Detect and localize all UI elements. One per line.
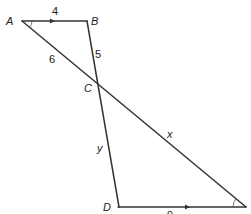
- vertex-label-c: C: [84, 82, 92, 94]
- parallel-arrow-icon: [185, 205, 190, 210]
- segment-label-ce: x: [166, 128, 173, 140]
- vertex-label-b: B: [91, 15, 98, 27]
- parallel-arrow-icon: [50, 19, 55, 24]
- segment-label-bc: 5: [95, 48, 101, 60]
- geometry-diagram: A B C D 4 5 6 x y 9: [0, 0, 251, 214]
- segment-bd: [87, 21, 119, 207]
- angle-mark-a-icon: [30, 21, 32, 27]
- segment-label-cd: y: [96, 142, 104, 154]
- segment-ae: [22, 21, 246, 207]
- segment-label-ab: 4: [52, 5, 58, 17]
- vertex-label-d: D: [103, 201, 111, 213]
- angle-mark-e-icon: [233, 199, 236, 207]
- segment-label-ac: 6: [49, 53, 55, 65]
- vertex-label-a: A: [5, 15, 13, 27]
- segment-label-de: 9: [167, 209, 173, 214]
